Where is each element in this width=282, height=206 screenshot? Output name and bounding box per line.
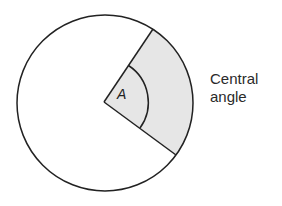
caption-central: Central: [210, 70, 258, 87]
angle-label: A: [117, 86, 126, 102]
caption-angle: angle: [210, 88, 247, 105]
